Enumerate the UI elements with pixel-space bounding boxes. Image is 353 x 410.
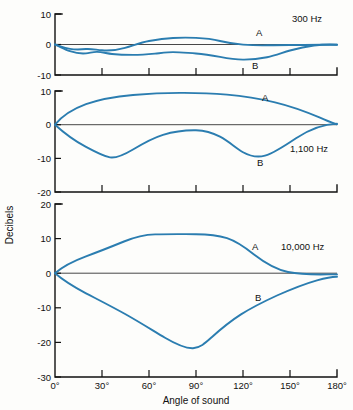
panel-10000hz-frequency-label: 10,000 Hz — [281, 241, 325, 252]
panel-1100hz-axes — [55, 91, 337, 192]
xtick-180: 180° — [327, 380, 347, 391]
panel-300hz-xticks — [102, 68, 290, 75]
xtick-120: 120° — [233, 380, 253, 391]
panel-10000hz-ytick-neg30: -30 — [37, 372, 51, 383]
xtick-90: 90° — [189, 380, 204, 391]
panel-10000hz: 20 10 0 -10 -20 -30 A B 10,000 Hz 0° 30°… — [37, 199, 347, 407]
panel-1100hz-yticks: 10 0 -10 -20 — [37, 86, 61, 198]
panel-10000hz-ytick-neg20: -20 — [37, 337, 51, 348]
three-panel-frequency-chart: Decibels 10 0 -10 A B 300 Hz — [0, 0, 353, 410]
panel-300hz-frequency-label: 300 Hz — [292, 13, 322, 24]
panel-10000hz-axes — [55, 204, 337, 377]
panel-10000hz-label-a: A — [252, 241, 259, 252]
panel-1100hz-ytick-neg10: -10 — [37, 153, 51, 164]
xtick-60: 60° — [142, 380, 157, 391]
panel-300hz-label-a: A — [256, 27, 263, 38]
y-axis-title: Decibels — [4, 206, 15, 244]
panel-10000hz-curve-b — [55, 273, 337, 348]
panel-1100hz-label-b: B — [257, 157, 263, 168]
panel-10000hz-xticks — [102, 370, 290, 377]
x-axis-tick-labels: 0° 30° 60° 90° 120° 150° 180° — [50, 380, 347, 391]
panel-1100hz-xticks — [102, 185, 290, 192]
panel-1100hz-label-a: A — [262, 92, 269, 103]
panel-1100hz: 10 0 -10 -20 A B 1,100 Hz — [37, 86, 337, 198]
panel-300hz-curve-b — [55, 45, 337, 60]
panel-10000hz-ytick-0: 0 — [46, 268, 51, 279]
xtick-0: 0° — [50, 380, 59, 391]
panel-1100hz-frequency-label: 1,100 Hz — [290, 143, 328, 154]
panel-1100hz-ytick-neg20: -20 — [37, 187, 51, 198]
panel-300hz-ytick-10: 10 — [40, 9, 51, 20]
panel-1100hz-ytick-10: 10 — [40, 86, 51, 97]
panel-10000hz-yticks: 20 10 0 -10 -20 -30 — [37, 199, 61, 383]
panel-1100hz-curve-a — [55, 93, 337, 125]
panel-300hz-label-b: B — [252, 60, 258, 71]
panel-1100hz-ytick-0: 0 — [46, 119, 51, 130]
panel-10000hz-ytick-20: 20 — [40, 199, 51, 210]
panel-10000hz-label-b: B — [255, 292, 261, 303]
xtick-30: 30° — [95, 380, 110, 391]
x-axis-title: Angle of sound — [163, 395, 230, 406]
panel-10000hz-ytick-neg10: -10 — [37, 302, 51, 313]
xtick-150: 150° — [280, 380, 300, 391]
panel-300hz-ytick-0: 0 — [46, 39, 51, 50]
panel-10000hz-ytick-10: 10 — [40, 233, 51, 244]
panel-300hz: 10 0 -10 A B 300 Hz — [37, 9, 337, 81]
panel-300hz-ytick-neg10: -10 — [37, 70, 51, 81]
